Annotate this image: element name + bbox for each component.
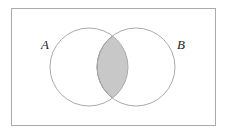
- set-b-label: B: [177, 37, 185, 52]
- set-a-label: A: [40, 37, 49, 52]
- venn-diagram: A B: [0, 0, 228, 134]
